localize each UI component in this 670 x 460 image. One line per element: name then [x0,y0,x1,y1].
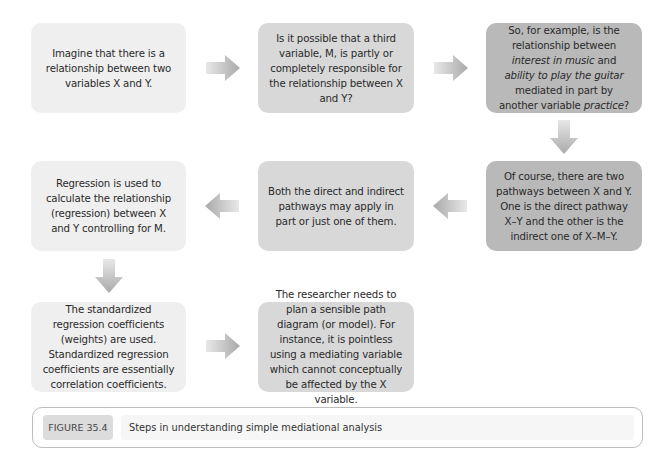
arrow-right-icon [434,55,468,81]
step-box-4: Of course, there are two pathways betwee… [486,161,642,251]
figure-caption: FIGURE 35.4 Steps in understanding simpl… [32,407,643,448]
step-box-3: So, for example, is the relationship bet… [486,23,642,113]
step-text-7: The standardized regression coefficients… [41,302,176,392]
step-text-6: Regression is used to calculate the rela… [41,176,176,236]
arrow-left-icon [433,193,467,219]
step-text-1: Imagine that there is a relationship bet… [41,46,176,91]
step-text-5: Both the direct and indirect pathways ma… [268,184,404,229]
step-box-8: The researcher needs to plan a sensible … [258,302,414,392]
step-box-7: The standardized regression coefficients… [31,302,186,392]
step-text-3: So, for example, is the relationship bet… [496,23,632,113]
figure-caption-text: Steps in understanding simple mediationa… [121,415,634,440]
arrow-right-icon [206,55,240,81]
arrow-down-icon [550,120,578,154]
step-box-6: Regression is used to calculate the rela… [31,161,186,251]
arrow-right-icon [206,333,240,359]
step-box-2: Is it possible that a third variable, M,… [258,23,414,113]
arrow-down-icon [95,259,123,293]
figure-label: FIGURE 35.4 [43,415,113,440]
step-box-1: Imagine that there is a relationship bet… [31,23,186,113]
step-box-5: Both the direct and indirect pathways ma… [258,161,414,251]
step-text-4: Of course, there are two pathways betwee… [496,169,632,244]
step-text-2: Is it possible that a third variable, M,… [268,31,404,106]
step-text-8: The researcher needs to plan a sensible … [268,287,404,407]
arrow-left-icon [205,193,239,219]
